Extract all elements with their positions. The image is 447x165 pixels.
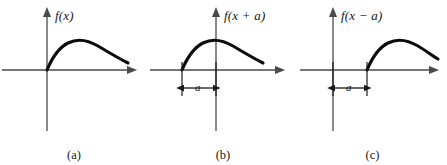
curve-fx-plus-a xyxy=(182,40,263,70)
panel-c-plot xyxy=(298,0,447,165)
translation-figure: f(x) (a) xyxy=(0,0,447,165)
panel-a-plot xyxy=(0,0,148,165)
panel-b-measure-label: a xyxy=(195,81,201,93)
panel-c-caption: (c) xyxy=(298,148,447,163)
panel-b: f(x + a) a (b) xyxy=(148,0,298,165)
panel-b-plot xyxy=(148,0,298,165)
panel-c-axis-label: f(x − a) xyxy=(341,8,382,24)
panel-a: f(x) (a) xyxy=(0,0,148,165)
curve-fx xyxy=(47,40,128,70)
panel-c: f(x − a) a (c) xyxy=(298,0,447,165)
panel-c-measure-label: a xyxy=(346,81,352,93)
panel-a-caption: (a) xyxy=(0,148,148,163)
panel-a-axis-label: f(x) xyxy=(55,8,74,24)
curve-fx-minus-a xyxy=(367,40,438,70)
panel-b-axis-label: f(x + a) xyxy=(224,8,265,24)
panel-b-caption: (b) xyxy=(148,148,298,163)
